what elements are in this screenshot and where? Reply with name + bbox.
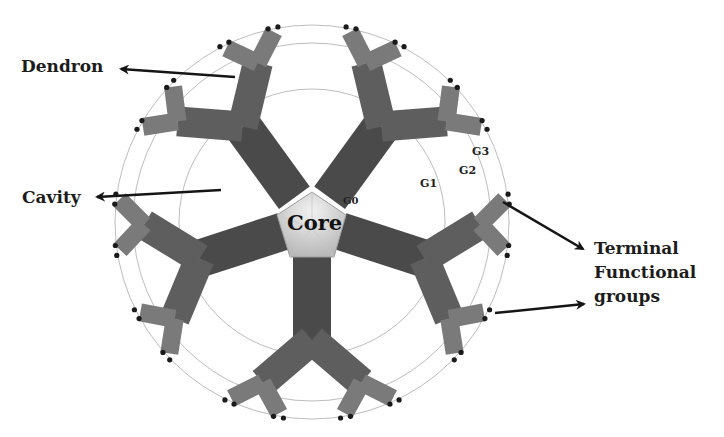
core-label: Core: [287, 212, 342, 233]
terminal-label-line2: Functional: [594, 260, 696, 284]
terminal-arrow-lower: [495, 304, 584, 313]
dendron-label: Dendron: [21, 58, 103, 75]
dendrimer-diagram: Dendron Cavity Core G0 G1 G2 G3 Terminal…: [0, 0, 724, 437]
terminal-label-line1: Terminal: [594, 236, 696, 260]
terminal-functional-groups-label: Terminal Functional groups: [594, 236, 696, 308]
generation-label-g2: G2: [459, 165, 476, 176]
dendron: [335, 192, 512, 363]
cavity-label: Cavity: [22, 189, 81, 206]
terminal-arrow-upper: [503, 202, 583, 249]
dendron: [134, 24, 309, 209]
generation-label-g1: G1: [420, 178, 437, 189]
generation-label-g3: G3: [472, 146, 489, 157]
terminal-label-line3: groups: [594, 284, 696, 308]
dendrimer-svg: [0, 0, 724, 437]
dendron: [222, 252, 401, 421]
dendron: [112, 192, 289, 363]
dendron: [314, 24, 489, 209]
generation-label-g0: G0: [343, 196, 359, 206]
